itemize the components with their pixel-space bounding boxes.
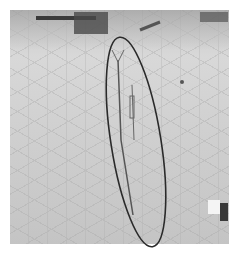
debris-stick	[140, 22, 160, 30]
highlight-ellipse	[95, 33, 178, 250]
pole-object	[118, 60, 133, 215]
debris-dark	[200, 12, 228, 22]
white-litter	[208, 200, 220, 214]
spot	[180, 80, 184, 84]
dark-litter	[220, 203, 228, 221]
debris-object	[74, 12, 108, 34]
photo-overlay	[0, 0, 236, 256]
